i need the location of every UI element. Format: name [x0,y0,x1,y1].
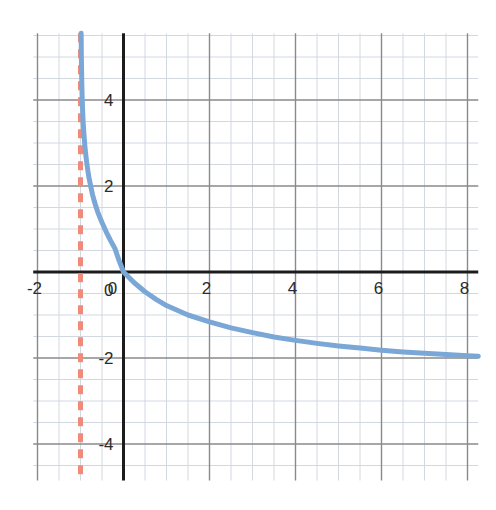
y-tick-label: 0 [104,281,113,300]
x-tick-label: 2 [202,279,211,298]
x-tick-label: 4 [288,279,297,298]
graph-figure: -202468 420-2-4 [0,0,496,510]
x-tick-label: 8 [460,279,469,298]
x-tick-label: -2 [27,279,42,298]
y-tick-label: 2 [104,177,113,196]
y-tick-label: -4 [98,435,113,454]
y-tick-label: -2 [98,349,113,368]
y-tick-label: 4 [104,91,113,110]
coordinate-plane: -202468 420-2-4 [0,0,496,510]
plot-background [0,0,496,510]
x-tick-label: 6 [374,279,383,298]
